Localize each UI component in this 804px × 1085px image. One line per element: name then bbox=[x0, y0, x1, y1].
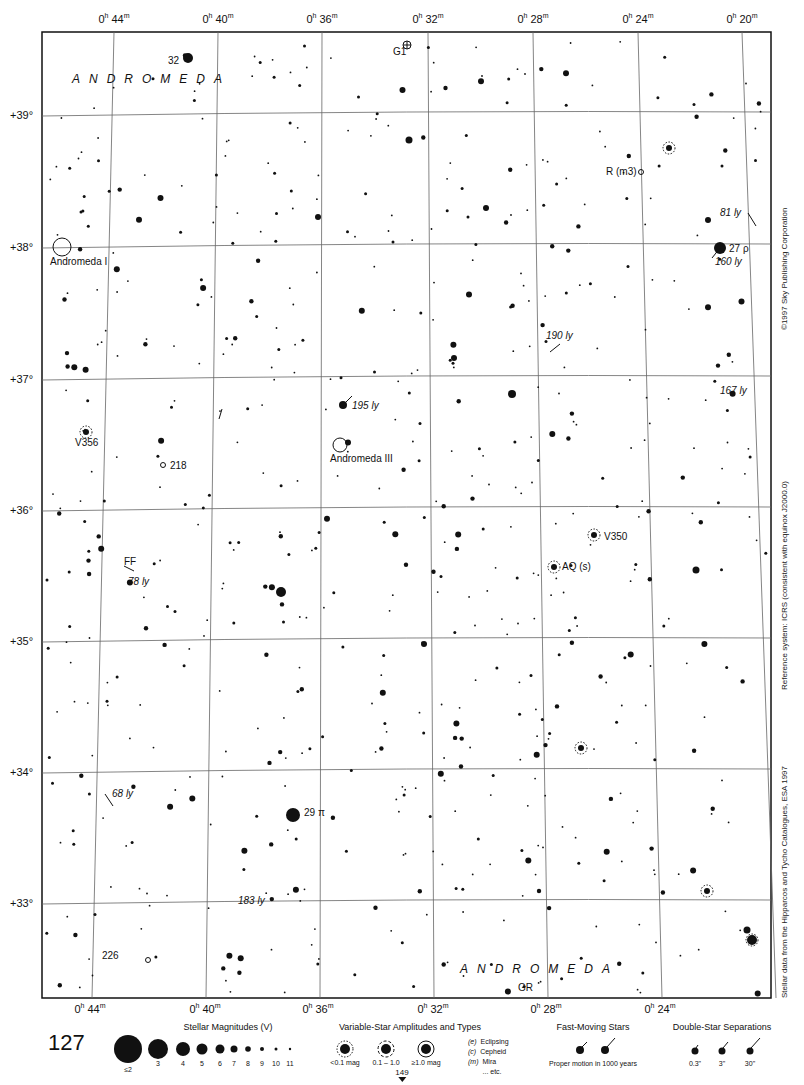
ra-label-top: 0h 32m bbox=[412, 12, 443, 25]
constellation-label: ANDROMEDA bbox=[460, 962, 619, 976]
legend-double-small: 0.3" bbox=[689, 1060, 701, 1067]
dec-label: +33° bbox=[10, 897, 33, 909]
legend-magnitude-label: 8 bbox=[246, 1060, 250, 1067]
constellation-label: ANDROMEDA bbox=[72, 72, 231, 86]
legend-magnitude-label: 10 bbox=[272, 1060, 280, 1067]
next-page-number: 149 bbox=[395, 1068, 408, 1077]
coordinate-grid bbox=[42, 32, 776, 998]
legend-variable-type: (m)Mira bbox=[468, 1058, 496, 1065]
special-objects bbox=[53, 41, 758, 963]
legend-variables-title: Variable-Star Amplitudes and Types bbox=[339, 1022, 481, 1032]
dec-label: +38° bbox=[10, 241, 33, 253]
object-label: 32 bbox=[168, 55, 179, 66]
dec-label: +36° bbox=[10, 504, 33, 516]
copyright-text: ©1997 Sky Publishing Corporation bbox=[780, 208, 789, 330]
legend-magnitude-label: 5 bbox=[200, 1060, 204, 1067]
object-label: 78 ly bbox=[128, 576, 149, 587]
legend-doubles-title: Double-Star Separations bbox=[673, 1022, 772, 1032]
star-chart bbox=[0, 0, 804, 1085]
dec-label: +39° bbox=[10, 109, 33, 121]
legend-var-high: ≥1.0 mag bbox=[411, 1059, 440, 1066]
dec-label: +34° bbox=[10, 766, 33, 778]
object-label: G1 bbox=[393, 46, 406, 57]
dec-label: +35° bbox=[10, 635, 33, 647]
legend-magnitude-label: 11 bbox=[286, 1060, 293, 1067]
legend-fast-caption: Proper motion in 1000 years bbox=[549, 1060, 637, 1067]
reference-system-text: Reference system: ICRS (consistent with … bbox=[780, 481, 789, 690]
legend-var-low: <0.1 mag bbox=[330, 1059, 359, 1066]
legend-magnitude-label: 4 bbox=[181, 1060, 185, 1067]
legend-var-mid: 0.1 – 1.0 bbox=[372, 1059, 399, 1066]
object-label: R (m3) bbox=[606, 166, 637, 177]
object-label: V350 bbox=[604, 531, 627, 542]
object-label: 195 ly bbox=[352, 400, 379, 411]
ra-label-bottom: 0h 44m bbox=[74, 1002, 105, 1015]
next-page-link[interactable]: 149 bbox=[395, 1068, 408, 1082]
object-label: V356 bbox=[75, 437, 98, 448]
legend-magnitude-label: 9 bbox=[260, 1060, 264, 1067]
data-source-text: Stellar data from the Hipparcos and Tych… bbox=[780, 766, 789, 998]
object-label: 160 ly bbox=[715, 256, 742, 267]
legend-magnitude-label: 3 bbox=[156, 1060, 160, 1067]
legend-double-large: 30" bbox=[745, 1060, 755, 1067]
legend-variable-type: (e)Eclipsing bbox=[468, 1038, 509, 1045]
object-label: Andromeda I bbox=[50, 256, 107, 267]
dec-label: +37° bbox=[10, 373, 33, 385]
ra-label-bottom: 0h 32m bbox=[417, 1002, 448, 1015]
legend-variable-type: (c)Cepheid bbox=[468, 1048, 506, 1055]
ra-label-top: 0h 28m bbox=[517, 12, 548, 25]
legend-magnitude-label: ≤2 bbox=[124, 1066, 132, 1073]
ra-label-top: 0h 20m bbox=[726, 12, 757, 25]
object-label: 29 π bbox=[304, 807, 325, 818]
object-label: GR bbox=[518, 982, 533, 993]
object-label: 27 ρ bbox=[729, 243, 749, 254]
legend-magnitude-label: 7 bbox=[232, 1060, 236, 1067]
chart-frame bbox=[42, 32, 771, 998]
legend-fast-title: Fast-Moving Stars bbox=[556, 1022, 629, 1032]
object-label: AQ (s) bbox=[562, 561, 591, 572]
ra-label-bottom: 0h 36m bbox=[302, 1002, 333, 1015]
ra-label-top: 0h 44m bbox=[98, 12, 129, 25]
legend-magnitudes-title: Stellar Magnitudes (V) bbox=[183, 1022, 272, 1032]
ra-label-bottom: 0h 40m bbox=[189, 1002, 220, 1015]
object-label: 190 ly bbox=[546, 330, 573, 341]
object-label: 167 ly bbox=[720, 385, 747, 396]
page-number: 127 bbox=[48, 1030, 85, 1056]
ra-label-bottom: 0h 24m bbox=[644, 1002, 675, 1015]
legend-magnitude-label: 6 bbox=[218, 1060, 222, 1067]
object-label: 218 bbox=[170, 460, 187, 471]
star-field bbox=[45, 41, 767, 997]
object-label: 81 ly bbox=[720, 207, 741, 218]
object-label: 68 ly bbox=[112, 788, 133, 799]
object-label: 183 ly bbox=[238, 895, 265, 906]
down-arrow-icon bbox=[398, 1077, 406, 1082]
ra-label-top: 0h 40m bbox=[202, 12, 233, 25]
object-label: Andromeda III bbox=[330, 453, 393, 464]
ra-label-top: 0h 24m bbox=[622, 12, 653, 25]
legend-double-mid: 3" bbox=[719, 1060, 725, 1067]
ra-label-top: 0h 36m bbox=[306, 12, 337, 25]
object-label: 226 bbox=[102, 950, 119, 961]
object-label: FF bbox=[124, 556, 136, 567]
legend-variable-type: (m)... etc. bbox=[468, 1068, 502, 1075]
ra-label-bottom: 0h 28m bbox=[530, 1002, 561, 1015]
